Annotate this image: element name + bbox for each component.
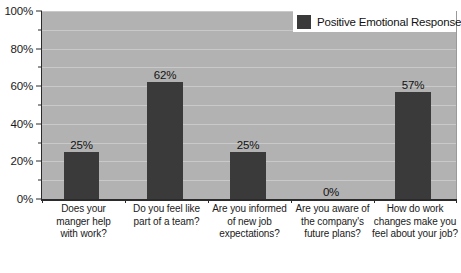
category-label-3: Are you informed of new job expectations… [208, 203, 291, 241]
gridline-80 [42, 49, 457, 50]
y-tick-label-0: 0% [17, 193, 33, 205]
plot-area [42, 11, 457, 199]
category-label-4-line-1: Are you aware of [291, 203, 374, 216]
y-tick-label-100: 100% [4, 5, 33, 17]
category-label-4: Are you aware of the company's future pl… [291, 203, 374, 241]
category-label-1: Does your manger help with work? [43, 203, 125, 241]
x-axis-line [41, 199, 457, 201]
bar-value-5: 57% [402, 79, 424, 91]
bar-value-1: 25% [70, 139, 92, 151]
legend-swatch-positive-emotional-response [297, 15, 311, 29]
bar-5[interactable] [395, 92, 431, 199]
y-axis: 100% 80% 60% 40% 20% 0% [0, 0, 42, 273]
category-label-2: Do you feel like part of a team? [125, 203, 208, 228]
category-label-5-line-2: changes make you [371, 216, 459, 229]
bar-2[interactable] [147, 82, 183, 199]
category-label-5-line-1: How do work [371, 203, 459, 216]
legend[interactable]: Positive Emotional Response [293, 11, 456, 32]
category-label-4-line-3: future plans? [291, 228, 374, 241]
bar-value-2: 62% [154, 69, 176, 81]
y-tick-label-40: 40% [11, 118, 33, 130]
category-label-3-line-1: Are you informed [208, 203, 291, 216]
x-axis-category-labels: Does your manger help with work? Do you … [42, 203, 457, 273]
category-label-2-line-2: part of a team? [125, 216, 208, 229]
y-tick-label-20: 20% [11, 155, 33, 167]
y-tick-label-80: 80% [11, 43, 33, 55]
legend-label-positive-emotional-response: Positive Emotional Response [317, 16, 461, 28]
y-tick-label-60: 60% [11, 80, 33, 92]
category-label-3-line-2: of new job [208, 216, 291, 229]
bar-3[interactable] [230, 152, 266, 199]
category-label-1-line-3: with work? [43, 228, 125, 241]
bar-value-4: 0% [323, 186, 339, 198]
gridline-60 [42, 86, 457, 87]
plot-right-border [456, 11, 457, 199]
category-label-1-line-2: manger help [43, 216, 125, 229]
category-label-4-line-2: the company's [291, 216, 374, 229]
category-label-2-line-1: Do you feel like [125, 203, 208, 216]
category-label-1-line-1: Does your [43, 203, 125, 216]
category-label-5-line-3: feel about your job? [371, 228, 459, 241]
category-label-3-line-3: expectations? [208, 228, 291, 241]
bar-1[interactable] [64, 152, 99, 199]
bar-value-3: 25% [237, 139, 259, 151]
gridline-70 [42, 67, 457, 68]
category-label-5: How do work changes make you feel about … [371, 203, 459, 241]
